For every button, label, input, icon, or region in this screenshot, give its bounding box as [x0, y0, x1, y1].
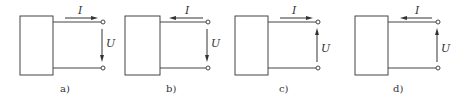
- circuit-diagram: I U a) I U b): [0, 0, 462, 102]
- bottom-terminal: [316, 66, 320, 70]
- network-box: [125, 16, 160, 75]
- bottom-terminal: [436, 66, 440, 70]
- panel-caption: d): [393, 83, 403, 94]
- panel-caption: c): [279, 83, 289, 94]
- top-terminal: [206, 20, 210, 24]
- voltage-arrow-down-icon: [100, 29, 104, 62]
- panel-b: I U b): [125, 4, 221, 94]
- voltage-label: U: [441, 42, 451, 55]
- voltage-arrow-up-icon: [435, 28, 439, 62]
- current-arrow-right-icon: [280, 16, 313, 20]
- voltage-label: U: [211, 37, 221, 50]
- voltage-label: U: [106, 37, 116, 50]
- panel-d: I U d): [355, 4, 451, 94]
- current-label: I: [77, 4, 83, 17]
- panel-a: I U a): [20, 4, 116, 94]
- panel-caption: b): [166, 83, 176, 94]
- panel-c: I U c): [235, 4, 331, 94]
- current-label: I: [184, 4, 190, 17]
- current-label: I: [414, 4, 420, 17]
- bottom-terminal: [101, 66, 105, 70]
- voltage-arrow-up-icon: [315, 28, 319, 62]
- bottom-terminal: [206, 66, 210, 70]
- network-box: [235, 16, 268, 75]
- network-box: [20, 16, 53, 75]
- top-terminal: [101, 20, 105, 24]
- top-terminal: [316, 20, 320, 24]
- panel-caption: a): [60, 83, 70, 94]
- voltage-arrow-down-icon: [205, 29, 209, 62]
- voltage-label: U: [321, 42, 331, 55]
- network-box: [355, 16, 388, 75]
- top-terminal: [436, 20, 440, 24]
- current-label: I: [291, 4, 297, 17]
